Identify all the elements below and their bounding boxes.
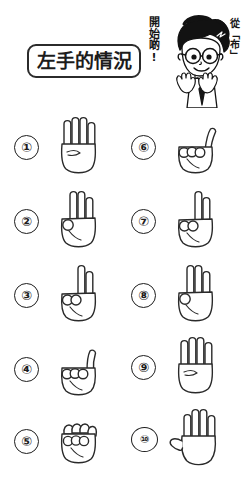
step-number-badge: ⑤ (14, 429, 39, 454)
hand-two-icon (45, 264, 111, 326)
gesture-chart-page: 左手的情況 開始啲! 從「布」 (0, 0, 247, 481)
hand-three-icon (162, 264, 228, 326)
gesture-row: ⑩ (117, 406, 241, 472)
step-number: ③ (21, 288, 32, 301)
gesture-row: ⑦ (117, 188, 241, 254)
gesture-rows: ① (0, 108, 247, 481)
step-number: ⑩ (140, 433, 149, 444)
step-number-badge: ⑥ (131, 135, 156, 160)
gesture-row: ③ (0, 262, 124, 328)
step-number-badge: ⑨ (131, 355, 156, 380)
hand-three-icon (45, 190, 111, 252)
step-number-badge: ⑧ (131, 283, 156, 308)
step-number-badge: ⑩ (131, 427, 158, 452)
gesture-row: ④ (0, 336, 124, 402)
gesture-row: ① (0, 114, 124, 180)
mascot-illustration (160, 12, 234, 108)
hand-four-icon (45, 116, 111, 178)
hand-thumb-icon (162, 116, 228, 178)
page-title: 左手的情況 (37, 51, 132, 70)
step-number: ① (21, 140, 32, 153)
chart-header: 左手的情況 開始啲! 從「布」 (0, 0, 247, 112)
step-number-badge: ③ (14, 283, 39, 308)
step-number: ⑦ (138, 214, 149, 227)
step-number-badge: ④ (14, 357, 39, 382)
gesture-row: ② (0, 188, 124, 254)
title-box: 左手的情況 (27, 44, 141, 78)
step-number: ④ (21, 362, 32, 375)
hand-two-icon (162, 190, 228, 252)
step-number: ② (21, 214, 32, 227)
hand-fist-icon (45, 410, 111, 472)
hand-one-icon (45, 338, 111, 400)
gesture-row: ⑨ (117, 334, 241, 400)
annotation-start: 開始啲! (148, 16, 159, 64)
hand-open-icon (164, 408, 230, 470)
step-number: ⑥ (138, 140, 149, 153)
step-number-badge: ① (14, 135, 39, 160)
gesture-column-right: ⑥ (117, 108, 241, 481)
step-number: ⑧ (138, 288, 149, 301)
step-number: ⑨ (138, 360, 149, 373)
gesture-row: ⑤ (0, 408, 124, 474)
gesture-row: ⑥ (117, 114, 241, 180)
gesture-row: ⑧ (117, 262, 241, 328)
step-number-badge: ② (14, 209, 39, 234)
hand-four-icon (162, 336, 228, 398)
step-number: ⑤ (21, 434, 32, 447)
step-number-badge: ⑦ (131, 209, 156, 234)
gesture-column-left: ① (0, 108, 124, 481)
